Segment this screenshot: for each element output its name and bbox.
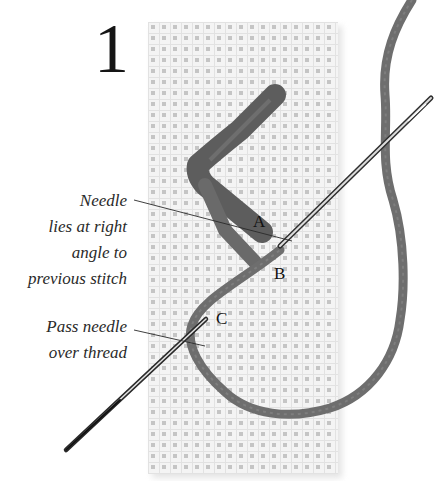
annotation-line: previous stitch: [28, 266, 127, 292]
annotation-line: lies at right: [28, 214, 127, 240]
stitch-diagram: 1 A B C Needle lies at right angle to pr…: [0, 0, 439, 481]
annotation-line: Pass needle: [46, 314, 127, 340]
annotation-line: over thread: [46, 340, 127, 366]
annotation-line: Needle: [28, 188, 127, 214]
annotation-line: angle to: [28, 240, 127, 266]
point-label-b: B: [274, 264, 285, 284]
point-label-a: A: [253, 212, 265, 232]
annotation-needle-right-angle: Needle lies at right angle to previous s…: [28, 188, 127, 292]
step-number: 1: [94, 14, 129, 84]
point-label-c: C: [216, 309, 227, 329]
annotation-pass-needle: Pass needle over thread: [46, 314, 127, 366]
